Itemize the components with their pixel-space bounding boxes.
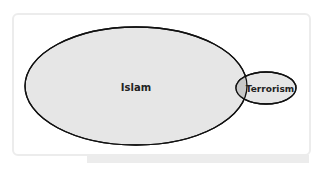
venn-diagram: Islam Terrorism	[0, 0, 324, 169]
set-terrorism-label: Terrorism	[246, 84, 294, 94]
set-islam-label: Islam	[121, 82, 151, 93]
